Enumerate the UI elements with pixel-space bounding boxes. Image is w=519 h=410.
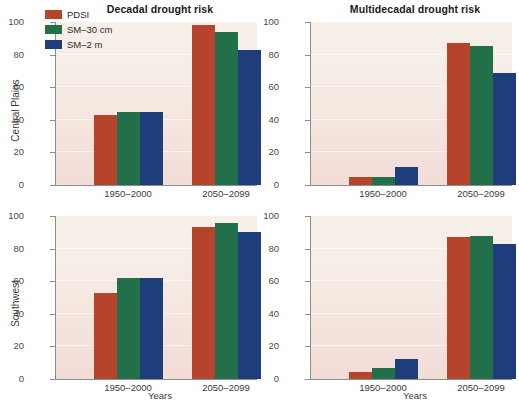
y-tick-label: 0 <box>19 373 24 384</box>
y-tick-mark <box>305 55 310 56</box>
bar-sm-30-cm <box>215 32 238 185</box>
bar-sm-2-m <box>493 244 516 379</box>
x-axis-line <box>55 379 257 380</box>
y-tick-label: 100 <box>8 16 24 27</box>
y-axis-line <box>310 22 311 185</box>
bar-sm-30-cm <box>470 236 493 379</box>
bar-sm-30-cm <box>470 46 493 185</box>
y-tick-mark <box>50 379 55 380</box>
x-axis-line <box>310 185 512 186</box>
x-tick-label: 1950–2000 <box>343 382 423 393</box>
bar-group <box>447 216 516 379</box>
y-tick-mark <box>305 120 310 121</box>
y-tick-mark <box>50 152 55 153</box>
x-axis-line <box>310 379 512 380</box>
legend-item-sm30cm: SM–30 cm <box>45 23 112 36</box>
panel-southwest-decadal: 0204060801001950–20002050–2099 <box>27 212 259 394</box>
x-tick-label: 1950–2000 <box>343 188 423 199</box>
bar-sm-2-m <box>238 50 261 185</box>
bar-sm-30-cm <box>117 278 140 379</box>
bar-pdsi <box>94 115 117 185</box>
y-tick-mark <box>305 185 310 186</box>
y-tick-mark <box>50 216 55 217</box>
legend-item-sm2m: SM–2 m <box>45 38 112 51</box>
y-tick-mark <box>305 281 310 282</box>
row-label-southwest: Southwest <box>10 259 21 349</box>
y-tick-label: 60 <box>268 81 279 92</box>
plot-area <box>311 22 512 185</box>
bar-sm-30-cm <box>215 223 238 379</box>
bar-group <box>94 216 163 379</box>
y-axis-line <box>310 216 311 379</box>
y-tick-label: 0 <box>274 373 279 384</box>
bar-sm-2-m <box>140 278 163 379</box>
bar-pdsi <box>94 293 117 379</box>
y-tick-label: 60 <box>13 275 24 286</box>
legend-swatch-sm2m <box>45 40 62 49</box>
y-tick-mark <box>50 185 55 186</box>
bar-sm-2-m <box>395 167 418 185</box>
bar-pdsi <box>447 237 470 379</box>
y-tick-label: 0 <box>274 179 279 190</box>
y-tick-label: 20 <box>268 146 279 157</box>
bar-pdsi <box>192 227 215 379</box>
bar-sm-2-m <box>493 73 516 185</box>
y-tick-label: 40 <box>268 308 279 319</box>
y-tick-label: 80 <box>13 243 24 254</box>
bar-pdsi <box>192 25 215 185</box>
panel-title-multidecadal: Multidecadal drought risk <box>315 3 515 15</box>
panel-central-plains-multidecadal: 0204060801001950–20002050–2099 <box>282 18 514 200</box>
y-tick-label: 40 <box>268 114 279 125</box>
bar-pdsi <box>447 43 470 185</box>
bar-group <box>192 22 261 185</box>
bar-sm-30-cm <box>117 112 140 185</box>
y-tick-label: 0 <box>19 179 24 190</box>
y-tick-label: 60 <box>13 81 24 92</box>
x-axis-line <box>55 185 257 186</box>
y-tick-mark <box>305 216 310 217</box>
y-tick-label: 20 <box>268 340 279 351</box>
legend-swatch-sm30cm <box>45 25 62 34</box>
x-tick-label: 1950–2000 <box>88 382 168 393</box>
y-tick-label: 100 <box>8 210 24 221</box>
y-tick-label: 20 <box>13 340 24 351</box>
y-tick-label: 60 <box>268 275 279 286</box>
bar-sm-2-m <box>140 112 163 185</box>
y-tick-label: 80 <box>13 49 24 60</box>
x-tick-label: 2050–2099 <box>441 382 519 393</box>
drought-risk-figure: Decadal drought risk Multidecadal drough… <box>0 0 519 410</box>
bar-sm-30-cm <box>372 177 395 185</box>
y-tick-mark <box>305 379 310 380</box>
plot-area <box>56 216 257 379</box>
bar-sm-2-m <box>238 232 261 379</box>
y-tick-mark <box>50 55 55 56</box>
legend-swatch-pdsi <box>45 10 62 19</box>
legend-label-sm30cm: SM–30 cm <box>67 24 112 35</box>
y-tick-mark <box>50 120 55 121</box>
y-tick-mark <box>305 22 310 23</box>
bar-group <box>349 216 418 379</box>
legend-label-sm2m: SM–2 m <box>67 39 102 50</box>
y-tick-mark <box>50 87 55 88</box>
y-tick-label: 100 <box>263 16 279 27</box>
y-tick-mark <box>50 281 55 282</box>
bar-group <box>349 22 418 185</box>
bar-group <box>447 22 516 185</box>
legend-label-pdsi: PDSI <box>67 9 89 20</box>
y-tick-label: 40 <box>13 308 24 319</box>
y-tick-mark <box>305 314 310 315</box>
y-axis-line <box>55 216 56 379</box>
y-tick-label: 20 <box>13 146 24 157</box>
y-tick-mark <box>305 249 310 250</box>
bar-pdsi <box>349 177 372 185</box>
x-tick-label: 2050–2099 <box>186 382 266 393</box>
y-tick-label: 40 <box>13 114 24 125</box>
y-tick-mark <box>50 314 55 315</box>
row-label-central-plains: Central Plains <box>10 66 21 156</box>
panel-southwest-multidecadal: 0204060801001950–20002050–2099 <box>282 212 514 394</box>
x-tick-label: 1950–2000 <box>88 188 168 199</box>
y-tick-mark <box>50 249 55 250</box>
y-tick-mark <box>50 346 55 347</box>
legend-item-pdsi: PDSI <box>45 8 112 21</box>
bar-sm-2-m <box>395 359 418 379</box>
